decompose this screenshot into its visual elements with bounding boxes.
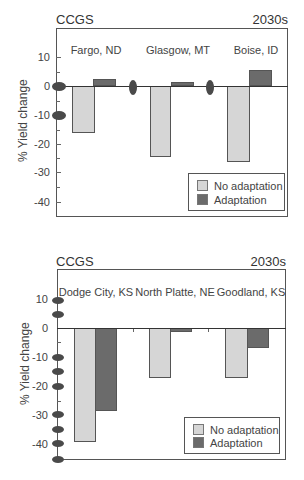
punch-hole <box>52 411 64 418</box>
legend: No adaptation Adaptation <box>184 417 280 454</box>
chart-title: CCGS <box>56 254 94 269</box>
tick-label: -30 <box>22 409 48 421</box>
legend-swatch <box>193 437 204 448</box>
chart-bottom: CCGS 2030s % Yield change 10 0 -10 -20 -… <box>0 0 304 480</box>
site-label: Dodge City, KS <box>59 286 133 298</box>
tick-label: 0 <box>22 322 48 334</box>
punch-hole <box>52 383 64 390</box>
punch-hole <box>52 354 64 361</box>
legend-item-adaptation: Adaptation <box>193 437 263 450</box>
punch-hole <box>52 426 64 433</box>
tick-label: -10 <box>22 351 48 363</box>
punch-hole <box>52 456 64 463</box>
punch-hole <box>52 297 64 304</box>
legend-item-no-adaptation: No adaptation <box>193 424 279 437</box>
site-label: North Platte, NE <box>135 286 214 298</box>
bar-no-adaptation-dodge-city <box>74 328 96 442</box>
tick-label: 10 <box>22 293 48 305</box>
y-tick <box>57 401 61 402</box>
site-label: Goodland, KS <box>217 286 286 298</box>
bar-adaptation-dodge-city <box>95 328 117 411</box>
y-tick <box>57 342 61 343</box>
legend-swatch <box>193 424 204 435</box>
punch-hole <box>52 368 64 375</box>
bar-adaptation-goodland <box>247 328 269 348</box>
zero-line <box>57 328 286 329</box>
punch-hole <box>52 311 64 318</box>
tick-label: -20 <box>22 380 48 392</box>
punch-hole <box>52 440 64 447</box>
bar-no-adaptation-goodland <box>225 328 248 378</box>
bar-no-adaptation-north-platte <box>149 328 171 378</box>
chart-period: 2030s <box>251 254 286 269</box>
tick-label: -40 <box>22 438 48 450</box>
y-axis-label: % Yield change <box>18 322 32 405</box>
